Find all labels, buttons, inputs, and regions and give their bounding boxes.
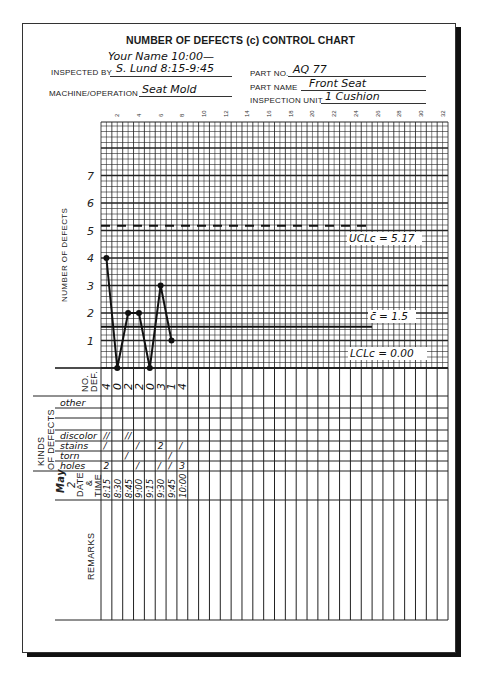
data-point [158, 283, 164, 289]
tally-mark: 2 [103, 461, 109, 471]
time-label: TIME [93, 474, 103, 497]
tally-mark: / [167, 461, 172, 471]
x-tick-label: 28 [396, 110, 402, 117]
x-tick-label: 24 [353, 110, 359, 117]
x-tick-label: 22 [331, 110, 337, 117]
kinds-label-2: OF DEFECTS [46, 409, 56, 470]
y-tick-label: 1 [87, 335, 94, 348]
no-def-label-2: DEF. [89, 371, 99, 392]
data-point [136, 310, 142, 316]
tally-mark: / [102, 441, 107, 451]
y-tick-label: 7 [87, 170, 94, 183]
tally-mark: / [178, 441, 183, 451]
tally-mark: / [124, 451, 129, 461]
tally-mark: / [135, 441, 140, 451]
tally-mark: // [102, 431, 110, 441]
time-value: 9:00 [134, 479, 144, 498]
y-tick-label: 3 [87, 280, 94, 293]
x-tick-label: 32 [440, 110, 446, 117]
time-value: 10:00 [178, 474, 188, 499]
x-tick-label: 20 [309, 110, 315, 117]
data-point [103, 255, 109, 261]
x-tick-label: 26 [375, 110, 381, 117]
tally-mark: 2 [158, 441, 164, 451]
data-point [114, 365, 120, 371]
x-tick-label: 8 [179, 113, 185, 117]
y-tick-label: 2 [87, 307, 94, 320]
y-tick-label: 6 [87, 197, 94, 210]
kinds-label-1: KINDS [36, 436, 46, 466]
x-tick-label: 4 [136, 113, 142, 117]
data-point [147, 365, 153, 371]
cbar-label: c̄ = 1.5 [370, 310, 408, 322]
x-tick-label: 10 [201, 110, 207, 117]
x-tick-label: 2 [114, 113, 120, 117]
tally-mark: // [124, 431, 132, 441]
kind-label-other: other [60, 397, 86, 408]
y-tick-label: 4 [87, 252, 94, 265]
ucl-label: UCLc = 5.17 [349, 232, 415, 244]
data-point [125, 310, 131, 316]
time-value: 9:30 [156, 479, 166, 498]
time-value: 9:15 [145, 479, 155, 498]
tally-mark: / [167, 451, 172, 461]
time-value: 8:15 [102, 479, 112, 498]
time-value: 8:30 [113, 479, 123, 498]
tally-mark: / [157, 461, 162, 471]
tally-mark: 3 [179, 461, 185, 471]
x-tick-label: 16 [266, 110, 272, 117]
x-tick-label: 12 [223, 110, 229, 117]
time-value: 9:45 [167, 479, 177, 498]
x-tick-label: 30 [418, 110, 424, 117]
tally-mark: / [135, 461, 140, 471]
time-value: 8:45 [124, 479, 134, 498]
remarks-label: REMARKS [86, 533, 96, 580]
date-month: May [55, 469, 66, 493]
y-tick-label: 5 [87, 225, 94, 238]
y-axis-title: NUMBER OF DEFECTS [60, 208, 69, 302]
control-chart-plot: 24681012141618202224262830321234567UCLc … [0, 0, 481, 676]
no-def-value: 4 [176, 383, 189, 390]
x-tick-label: 14 [244, 110, 250, 117]
x-tick-label: 18 [288, 110, 294, 117]
x-tick-label: 6 [158, 113, 164, 117]
data-point [168, 338, 174, 344]
lcl-label: LCLc = 0.00 [350, 347, 414, 359]
